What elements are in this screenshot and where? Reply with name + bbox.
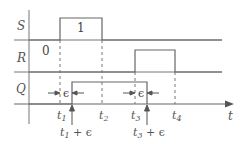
t1-eps-label: t1 + ϵ — [60, 126, 92, 140]
time-axis-arrow-icon — [225, 101, 234, 108]
t3-eps-arrow-icon — [145, 105, 150, 111]
r-label: R — [16, 51, 26, 65]
eps-arrow-right-icon — [55, 91, 60, 95]
t2-label: t2 — [99, 109, 109, 123]
t1-label: t1 — [57, 109, 67, 123]
eps-arrow-left-icon — [147, 91, 152, 95]
eps-label-1: ϵ — [63, 87, 69, 100]
t3-label: t3 — [131, 109, 141, 123]
eps-arrow-right-icon — [130, 91, 135, 95]
s-waveform — [29, 18, 222, 40]
eps-label-2: ϵ — [138, 87, 144, 100]
s-value: 1 — [77, 21, 85, 35]
r-waveform — [29, 50, 222, 72]
eps-arrow-left-icon — [72, 91, 77, 95]
timing-diagram: S R Q 1 0 ϵ ϵ t1 t2 t3 t4 t1 + ϵ t3 + ϵ … — [0, 0, 250, 144]
t1-eps-arrow-icon — [70, 105, 75, 111]
time-axis-label: t — [228, 109, 233, 123]
r-value: 0 — [42, 44, 50, 58]
s-label: S — [17, 19, 25, 33]
q-label: Q — [16, 82, 26, 96]
t4-label: t4 — [172, 109, 182, 123]
t3-eps-label: t3 + ϵ — [133, 126, 165, 140]
